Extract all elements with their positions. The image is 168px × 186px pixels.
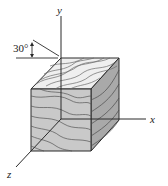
z-axis — [16, 151, 31, 167]
angle-label: 30° — [13, 42, 28, 54]
diagram-canvas: y x z 30° — [0, 0, 168, 186]
x-axis-label: x — [149, 113, 155, 125]
y-axis-label: y — [56, 4, 62, 16]
cube-diagram: y x z 30° — [0, 0, 168, 186]
z-axis-label: z — [6, 168, 12, 180]
